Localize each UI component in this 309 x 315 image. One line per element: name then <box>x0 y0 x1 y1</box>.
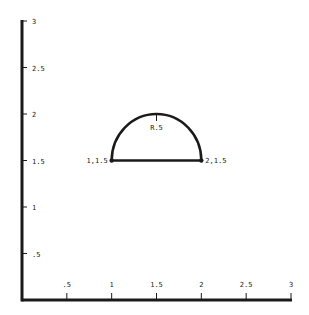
coordinate-plane: .511.522.53 .511.522.53 1,1.52,1.5R.5 <box>0 0 309 315</box>
y-tick-label: 1 <box>32 204 36 212</box>
x-tick-label: 1 <box>110 281 114 289</box>
endpoint-label: 2,1.5 <box>205 157 226 165</box>
x-tick-label: 2.5 <box>240 281 253 289</box>
y-tick-label: 2.5 <box>32 65 45 73</box>
y-axis-ticks: .511.522.53 <box>22 18 45 259</box>
endpoint-dot <box>109 158 113 162</box>
x-tick-label: .5 <box>63 281 71 289</box>
x-tick-label: 2 <box>199 281 203 289</box>
x-tick-label: 3 <box>289 281 293 289</box>
x-axis-ticks: .511.522.53 <box>63 281 293 300</box>
x-tick-label: 1.5 <box>150 281 163 289</box>
y-tick-label: 1.5 <box>32 158 45 166</box>
y-tick-label: 3 <box>32 18 36 26</box>
endpoint-dot <box>199 158 203 162</box>
radius-label: R.5 <box>150 124 163 132</box>
endpoint-label: 1,1.5 <box>87 157 108 165</box>
y-tick-label: .5 <box>32 251 40 259</box>
semicircle-shape: 1,1.52,1.5R.5 <box>87 114 227 165</box>
y-tick-label: 2 <box>32 111 36 119</box>
